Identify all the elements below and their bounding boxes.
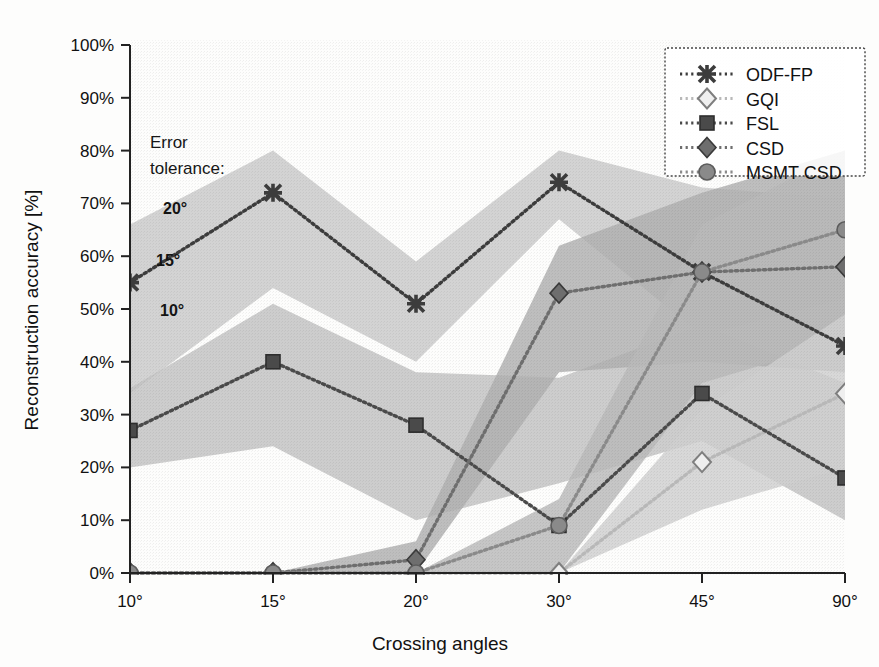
legend-item-label: FSL <box>746 114 779 134</box>
error-tolerance-line2: tolerance: <box>150 159 225 178</box>
star-marker <box>264 184 282 202</box>
star-marker <box>698 65 716 83</box>
y-tick-label: 50% <box>80 300 114 319</box>
chart-figure: 0%10%20%30%40%50%60%70%80%90%100% 10°15°… <box>0 0 879 667</box>
legend-item-odf-fp[interactable]: ODF-FP <box>680 65 813 85</box>
legend-item-label: MSMT CSD <box>746 163 842 183</box>
y-tick-label: 10% <box>80 511 114 530</box>
error-tolerance-line1: Error <box>150 133 188 152</box>
legend-item-msmt-csd[interactable]: MSMT CSD <box>680 163 842 183</box>
x-tick-label: 45° <box>689 592 715 611</box>
chart-legend: ODF-FPGQIFSLCSDMSMT CSD <box>665 48 865 183</box>
legend-item-label: CSD <box>746 139 784 159</box>
x-tick-label: 20° <box>403 592 429 611</box>
y-axis-title: Reconstruction accuracy [%] <box>21 190 42 431</box>
square-marker <box>695 386 709 400</box>
y-tick-label: 40% <box>80 353 114 372</box>
band-label-10: 10° <box>160 302 184 319</box>
star-marker <box>407 295 425 313</box>
x-tick-label: 10° <box>117 592 143 611</box>
y-tick-label: 20% <box>80 458 114 477</box>
y-tick-label: 80% <box>80 142 114 161</box>
y-tick-label: 60% <box>80 247 114 266</box>
x-tick-label: 15° <box>260 592 286 611</box>
legend-item-label: ODF-FP <box>746 65 813 85</box>
square-marker <box>700 116 714 130</box>
x-axis-title: Crossing angles <box>372 633 508 654</box>
y-tick-label: 30% <box>80 406 114 425</box>
y-tick-label: 70% <box>80 194 114 213</box>
reconstruction-accuracy-chart: 0%10%20%30%40%50%60%70%80%90%100% 10°15°… <box>0 0 879 667</box>
band-label-15: 15° <box>156 252 180 269</box>
band-label-20: 20° <box>163 200 187 217</box>
square-marker <box>266 355 280 369</box>
y-tick-label: 100% <box>71 36 114 55</box>
circle-marker <box>551 517 567 533</box>
x-tick-label: 90° <box>832 592 858 611</box>
circle-marker <box>694 264 710 280</box>
square-marker <box>409 418 423 432</box>
legend-item-label: GQI <box>746 90 779 110</box>
x-tick-label: 30° <box>546 592 572 611</box>
star-marker <box>550 173 568 191</box>
y-tick-label: 90% <box>80 89 114 108</box>
circle-marker <box>699 164 715 180</box>
y-tick-label: 0% <box>89 564 114 583</box>
